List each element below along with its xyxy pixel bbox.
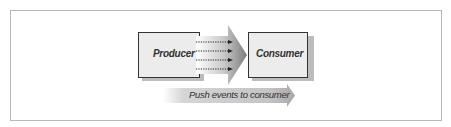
consumer-label: Consumer [256,48,303,59]
caption-label: Push events to consumer [189,89,289,100]
diagram-canvas [0,0,451,127]
producer-label: Producer [153,48,195,59]
